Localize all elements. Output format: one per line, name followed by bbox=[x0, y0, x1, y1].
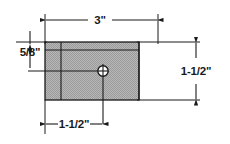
dimension-label-hole-offset-bottom: 1-1/2" bbox=[59, 118, 89, 130]
engineering-drawing: 3" 5/8" 1-1/2" 1-1/2" bbox=[0, 0, 230, 144]
dimension-label-height-right: 1-1/2" bbox=[181, 65, 211, 77]
dimension-edge-distance-left: 5/8" bbox=[16, 31, 47, 68]
dimension-height-right: 1-1/2" bbox=[137, 42, 211, 100]
dimension-width-top: 3" bbox=[45, 14, 158, 44]
drilled-hole bbox=[98, 66, 108, 76]
dimension-label-edge-distance-left: 5/8" bbox=[20, 46, 41, 58]
dimension-hole-offset-bottom: 1-1/2" bbox=[45, 100, 102, 134]
drawing-canvas: 3" 5/8" 1-1/2" 1-1/2" bbox=[0, 0, 230, 144]
dimension-label-width-top: 3" bbox=[94, 14, 105, 26]
